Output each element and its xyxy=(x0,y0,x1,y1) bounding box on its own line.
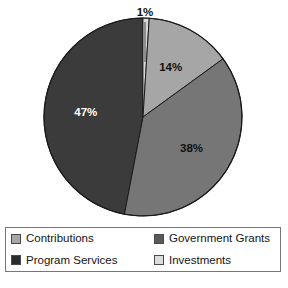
pie-label-contributions: 14% xyxy=(159,61,182,73)
legend-label-contributions: Contributions xyxy=(26,233,94,245)
legend-swatch-government-grants xyxy=(154,234,164,244)
legend-item-investments[interactable]: Investments xyxy=(154,255,280,267)
legend-swatch-program-services xyxy=(11,255,21,265)
legend-swatch-investments xyxy=(154,255,164,265)
legend-label-program-services: Program Services xyxy=(26,255,117,267)
pie-chart-svg: 1%14%38%47% xyxy=(0,0,288,224)
pie-label-investments: 1% xyxy=(137,6,154,18)
legend-grid: Contributions Government Grants Program … xyxy=(6,228,280,271)
legend-label-government-grants: Government Grants xyxy=(169,233,270,245)
pie-label-government-grants: 38% xyxy=(180,142,203,154)
pie-chart-plot-area: 1%14%38%47% xyxy=(0,0,288,224)
legend-label-investments: Investments xyxy=(169,255,231,267)
pie-chart-figure: 1%14%38%47% Contributions Government Gra… xyxy=(0,0,288,288)
legend-swatch-contributions xyxy=(11,234,21,244)
legend-item-program-services[interactable]: Program Services xyxy=(11,255,154,267)
pie-label-program-services: 47% xyxy=(74,106,97,118)
legend-item-government-grants[interactable]: Government Grants xyxy=(154,233,280,245)
legend-item-contributions[interactable]: Contributions xyxy=(11,233,154,245)
chart-legend: Contributions Government Grants Program … xyxy=(5,227,281,272)
